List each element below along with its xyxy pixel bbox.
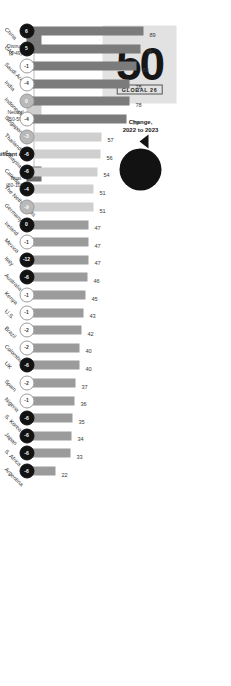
bar-group[interactable]: 46-6Australia xyxy=(0,270,231,283)
category-label: Kenya xyxy=(3,290,18,305)
bar-value-label: 45 xyxy=(91,295,97,301)
bar-group[interactable]: 45-1Kenya xyxy=(0,288,231,301)
change-marker: -4 xyxy=(19,111,34,126)
bar-group[interactable]: 76-4Singapore xyxy=(0,112,231,125)
change-marker-value: -6 xyxy=(24,433,28,438)
change-marker-value: -1 xyxy=(24,398,28,403)
bar xyxy=(26,255,88,264)
bar-value-label: 89 xyxy=(149,31,155,37)
bar-group[interactable]: 47-12Italy xyxy=(0,253,231,266)
change-marker-value: -2 xyxy=(24,345,28,350)
bar xyxy=(26,308,83,317)
change-marker: -1 xyxy=(19,234,34,249)
bar-group[interactable]: 54-6Canada xyxy=(0,165,231,178)
category-label: UK xyxy=(3,360,13,370)
change-marker: -3 xyxy=(19,129,34,144)
bar-group[interactable]: 35-6S. Korea xyxy=(0,411,231,424)
bar-group[interactable]: 57-3Thailand xyxy=(0,130,231,143)
bar-group[interactable]: 42-2Brazil xyxy=(0,323,231,336)
change-marker-value: -6 xyxy=(24,169,28,174)
change-marker-value: 0 xyxy=(25,98,28,103)
change-marker: -1 xyxy=(19,393,34,408)
bar-group[interactable]: 83-1Saudi Arabia xyxy=(0,59,231,72)
category-label: China xyxy=(3,26,18,41)
change-marker-value: -2 xyxy=(24,380,28,385)
category-label: Ireland xyxy=(3,219,19,235)
change-marker: -2 xyxy=(19,375,34,390)
bar-value-label: 57 xyxy=(107,136,113,142)
bar-group[interactable]: 51-9Germany xyxy=(0,200,231,213)
bar-value-label: 54 xyxy=(103,171,109,177)
bar-group[interactable]: 34-6Japan xyxy=(0,429,231,442)
bar xyxy=(26,272,87,281)
bar-group[interactable]: 37-2Spain xyxy=(0,376,231,389)
bar-value-label: 78 xyxy=(135,101,141,107)
bar xyxy=(26,237,88,246)
change-marker: -1 xyxy=(19,58,34,73)
change-marker-value: -4 xyxy=(24,186,28,191)
change-marker-value: -4 xyxy=(24,116,28,121)
bar-group[interactable]: 33-6S. Africa xyxy=(0,446,231,459)
category-label: Japan xyxy=(3,431,18,446)
change-marker: -12 xyxy=(19,252,34,267)
bar-value-label: 36 xyxy=(80,400,86,406)
bar-group[interactable]: 40-6UK xyxy=(0,358,231,371)
bar-group[interactable]: 56-6Malaysia xyxy=(0,147,231,160)
bar-group[interactable]: 78-4India xyxy=(0,77,231,90)
bar-value-label: 43 xyxy=(89,312,95,318)
change-marker: -6 xyxy=(19,164,34,179)
change-marker: 0 xyxy=(19,93,34,108)
bar-group[interactable]: 22-6Argentina xyxy=(0,464,231,477)
bar xyxy=(26,96,129,105)
change-marker: 6 xyxy=(19,23,34,38)
change-marker: -1 xyxy=(19,305,34,320)
bar-group[interactable]: 780Indonesia xyxy=(0,94,231,107)
change-marker-value: -3 xyxy=(24,134,28,139)
bar-group[interactable]: 470Ireland xyxy=(0,218,231,231)
bar-group[interactable]: 36-1Nigeria xyxy=(0,394,231,407)
category-label: Nigeria xyxy=(3,395,20,412)
bar-group[interactable]: 896China xyxy=(0,24,231,37)
bar-value-label: 33 xyxy=(76,453,82,459)
category-label: Brazil xyxy=(3,325,17,339)
change-marker-value: -2 xyxy=(24,327,28,332)
change-marker-value: 6 xyxy=(25,28,28,33)
change-marker: -6 xyxy=(19,269,34,284)
bar-value-label: 35 xyxy=(78,418,84,424)
change-marker: -6 xyxy=(19,428,34,443)
bar xyxy=(26,26,143,35)
bar xyxy=(26,61,136,70)
bar-value-label: 46 xyxy=(93,277,99,283)
change-marker: -4 xyxy=(19,76,34,91)
chart-canvas: MULTI-CURRENCY MERCANTILE 50 GLOBAL 26 C… xyxy=(0,0,231,686)
bar-group[interactable]: 47-1Mexico xyxy=(0,235,231,248)
bar xyxy=(26,220,88,229)
bar-value-label: 40 xyxy=(85,347,91,353)
bar-value-label: 86 xyxy=(146,48,152,54)
bar xyxy=(26,167,97,176)
bar-group[interactable]: 40-2Colombia xyxy=(0,341,231,354)
bar-group[interactable]: 51-4The Netherlands xyxy=(0,182,231,195)
bar-group[interactable]: 865UAE xyxy=(0,42,231,55)
bar xyxy=(26,290,85,299)
change-marker-value: -6 xyxy=(24,415,28,420)
change-marker-value: -6 xyxy=(24,362,28,367)
bar-value-label: 40 xyxy=(85,365,91,371)
change-marker: -2 xyxy=(19,322,34,337)
change-marker-value: 5 xyxy=(25,46,28,51)
bar-value-label: 51 xyxy=(99,189,105,195)
change-marker: -6 xyxy=(19,463,34,478)
change-marker: -6 xyxy=(19,410,34,425)
bar-group[interactable]: 43-1U.S. xyxy=(0,306,231,319)
bar xyxy=(26,79,129,88)
change-marker: -4 xyxy=(19,181,34,196)
change-marker: -6 xyxy=(19,357,34,372)
category-label: U.S. xyxy=(3,307,15,319)
bar xyxy=(26,149,100,158)
category-label: Mexico xyxy=(3,237,20,254)
change-marker-value: -6 xyxy=(24,450,28,455)
change-marker-value: -1 xyxy=(24,239,28,244)
change-marker: 0 xyxy=(19,217,34,232)
category-label: Italy xyxy=(3,255,15,267)
bar-value-label: 47 xyxy=(94,242,100,248)
